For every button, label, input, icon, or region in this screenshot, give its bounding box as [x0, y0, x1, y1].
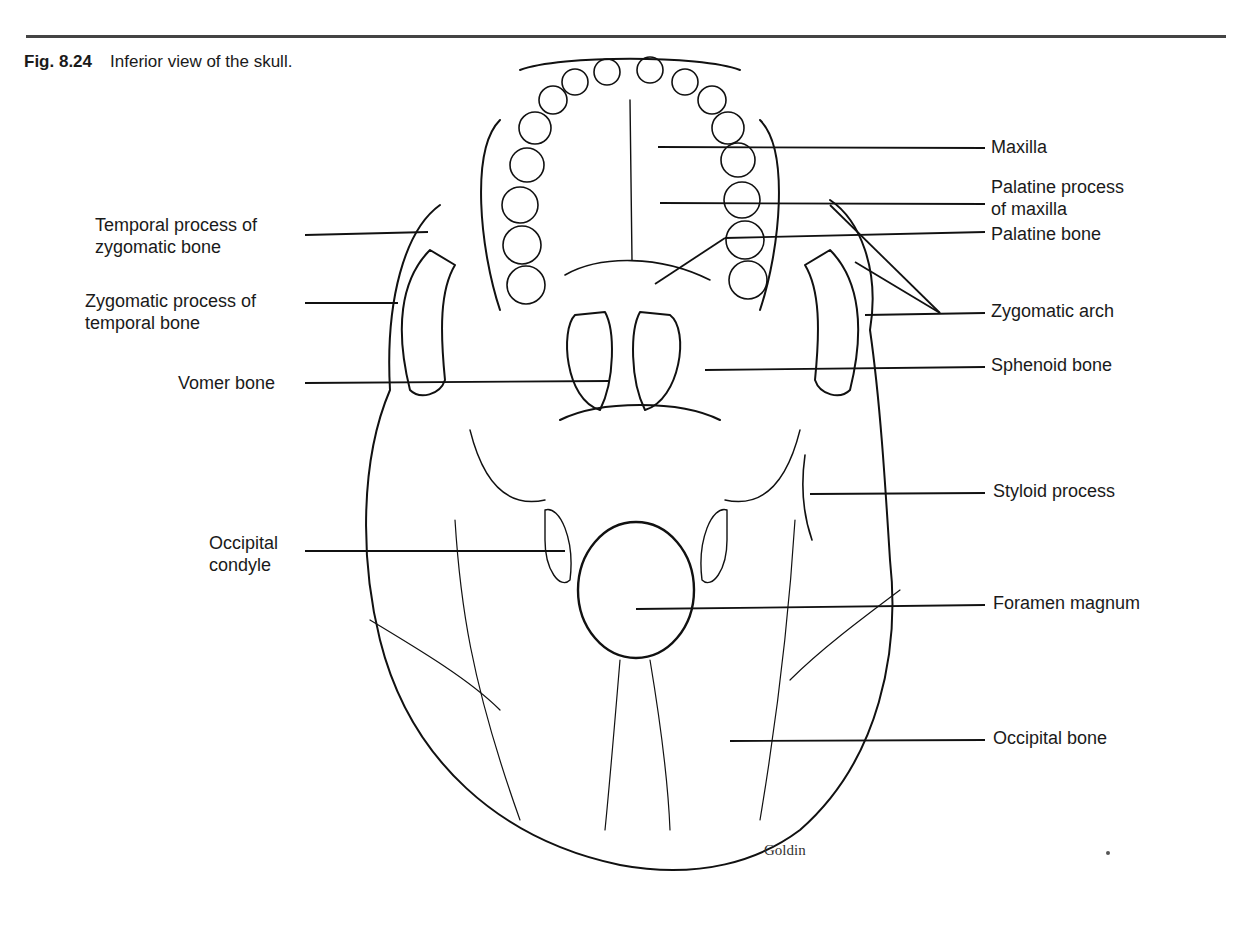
label-foramen-magnum: Foramen magnum: [993, 592, 1140, 614]
artist-credit: Goldin: [764, 842, 806, 859]
label-styloid-process: Styloid process: [993, 480, 1115, 502]
label-occipital-bone: Occipital bone: [993, 727, 1107, 749]
skull-outline: [366, 200, 892, 870]
label-zygomatic-arch: Zygomatic arch: [991, 300, 1114, 322]
skull-inferior-illustration: [0, 0, 1244, 926]
label-palatine-process-of-maxilla: Palatine process of maxilla: [991, 176, 1124, 220]
label-sphenoid-bone: Sphenoid bone: [991, 354, 1112, 376]
label-occipital-condyle: Occipital condyle: [209, 532, 278, 576]
label-maxilla: Maxilla: [991, 136, 1047, 158]
label-temporal-process-of-zygomatic-bone: Temporal process of zygomatic bone: [95, 214, 257, 258]
label-zygomatic-process-of-temporal-bone: Zygomatic process of temporal bone: [85, 290, 256, 334]
foramen-magnum-shape: [578, 522, 694, 658]
label-vomer-bone: Vomer bone: [178, 372, 275, 394]
label-palatine-bone: Palatine bone: [991, 223, 1101, 245]
